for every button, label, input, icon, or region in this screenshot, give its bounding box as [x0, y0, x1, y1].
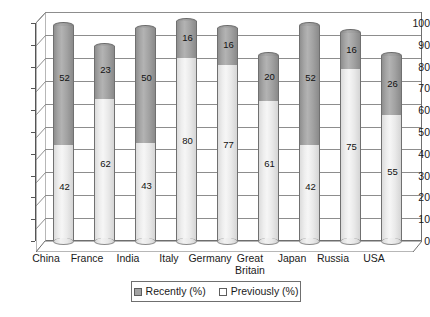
bar-value-recently-china: 52	[54, 73, 75, 83]
bar-japan[interactable]: 52 42	[299, 26, 320, 241]
bar-value-recently-great-britain: 20	[259, 72, 280, 82]
legend-item-recently[interactable]: Recently (%)	[134, 286, 206, 297]
cylinder-base-italy	[176, 238, 197, 245]
bar-great-britain[interactable]: 20 61	[258, 56, 279, 241]
bar-segment-previously-france[interactable]: 62	[94, 99, 115, 241]
bar-value-recently-germany: 16	[218, 40, 239, 50]
bar-china[interactable]: 52 42	[53, 26, 74, 241]
bar-segment-previously-china[interactable]: 42	[53, 145, 74, 241]
y-tick-60	[31, 110, 35, 111]
cylinder-base-china	[53, 238, 74, 245]
y-tick-70	[31, 88, 35, 89]
bar-value-recently-italy: 16	[177, 33, 198, 43]
bar-segment-recently-germany[interactable]: 16	[217, 28, 238, 65]
x-axis-label-usa: USA	[345, 253, 403, 265]
y-tick-80	[31, 67, 35, 68]
bar-value-previously-france: 62	[95, 159, 116, 169]
y-tick-90	[31, 45, 35, 46]
bar-segment-recently-usa[interactable]: 26	[381, 56, 402, 116]
bar-value-previously-italy: 80	[177, 136, 198, 146]
bar-segment-recently-china[interactable]: 52	[53, 26, 74, 145]
y-tick-0	[31, 241, 35, 242]
bar-value-recently-russia: 16	[341, 45, 362, 55]
stacked-bar-chart: 100 90 80 70 60 50 40 30 20 10 0 52 42	[0, 0, 430, 317]
bar-value-previously-great-britain: 61	[259, 159, 280, 169]
y-tick-10	[31, 219, 35, 220]
bar-value-previously-japan: 42	[300, 182, 321, 192]
y-tick-50	[31, 132, 35, 133]
bar-italy[interactable]: 16 80	[176, 21, 197, 241]
bar-segment-previously-india[interactable]: 43	[135, 143, 156, 242]
cylinder-base-usa	[381, 238, 402, 245]
bar-segment-previously-italy[interactable]: 80	[176, 58, 197, 241]
cylinder-base-great-britain	[258, 238, 279, 245]
legend-swatch-previously-icon	[219, 288, 227, 296]
bar-segment-recently-france[interactable]: 23	[94, 46, 115, 99]
cylinder-base-japan	[299, 238, 320, 245]
bar-russia[interactable]: 16 75	[340, 33, 361, 241]
y-tick-20	[31, 197, 35, 198]
cylinder-base-germany	[217, 238, 238, 245]
bar-segment-recently-russia[interactable]: 16	[340, 33, 361, 70]
bar-france[interactable]: 23 62	[94, 46, 115, 241]
legend-label-previously: Previously (%)	[231, 286, 299, 297]
bar-segment-previously-germany[interactable]: 77	[217, 65, 238, 241]
bar-value-previously-russia: 75	[341, 142, 362, 152]
bar-value-previously-usa: 55	[382, 167, 403, 177]
bar-value-previously-china: 42	[54, 182, 75, 192]
bar-segment-previously-russia[interactable]: 75	[340, 69, 361, 241]
bar-value-recently-india: 50	[136, 73, 157, 83]
chart-legend: Recently (%) Previously (%)	[131, 281, 301, 302]
bar-segment-recently-japan[interactable]: 52	[299, 26, 320, 145]
cylinder-base-india	[135, 238, 156, 245]
bar-value-recently-usa: 26	[382, 79, 403, 89]
bar-segment-recently-great-britain[interactable]: 20	[258, 56, 279, 102]
bar-value-previously-india: 43	[136, 181, 157, 191]
bar-value-recently-france: 23	[95, 65, 116, 75]
cylinder-base-russia	[340, 238, 361, 245]
bar-value-recently-japan: 52	[300, 73, 321, 83]
bar-segment-previously-japan[interactable]: 42	[299, 145, 320, 241]
y-tick-30	[31, 176, 35, 177]
bar-value-previously-germany: 77	[218, 140, 239, 150]
legend-swatch-recently-icon	[134, 288, 142, 296]
bars-layer: 52 42 23 62	[36, 12, 422, 252]
legend-item-previously[interactable]: Previously (%)	[219, 286, 299, 297]
bar-india[interactable]: 50 43	[135, 28, 156, 241]
bar-segment-recently-italy[interactable]: 16	[176, 21, 197, 58]
bar-usa[interactable]: 26 55	[381, 56, 402, 241]
y-tick-40	[31, 154, 35, 155]
legend-label-recently: Recently (%)	[146, 286, 206, 297]
y-tick-100	[31, 23, 35, 24]
bar-germany[interactable]: 16 77	[217, 28, 238, 241]
bar-segment-previously-great-britain[interactable]: 61	[258, 101, 279, 241]
bar-segment-recently-india[interactable]: 50	[135, 28, 156, 143]
cylinder-base-france	[94, 238, 115, 245]
bar-segment-previously-usa[interactable]: 55	[381, 115, 402, 241]
